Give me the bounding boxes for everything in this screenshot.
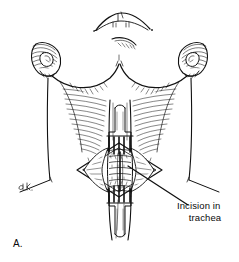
chin-outline <box>93 12 153 32</box>
neck-outline <box>52 55 187 88</box>
right-shoulder <box>187 78 219 192</box>
jawline-hatching <box>70 83 169 94</box>
incision-label-line1: Incision in <box>176 200 238 212</box>
panel-letter: A. <box>13 238 22 249</box>
left-sternocleidomastoid <box>60 82 106 162</box>
right-ear <box>178 43 207 78</box>
figure-panel: Incision in trachea A. <box>0 0 239 262</box>
left-ear <box>32 43 61 78</box>
submental-shadow <box>112 38 136 49</box>
right-sternocleidomastoid <box>133 82 179 162</box>
incision-label-line2: trachea <box>176 212 238 224</box>
left-shoulder <box>20 78 52 192</box>
incision-label: Incision in trachea <box>176 200 238 223</box>
